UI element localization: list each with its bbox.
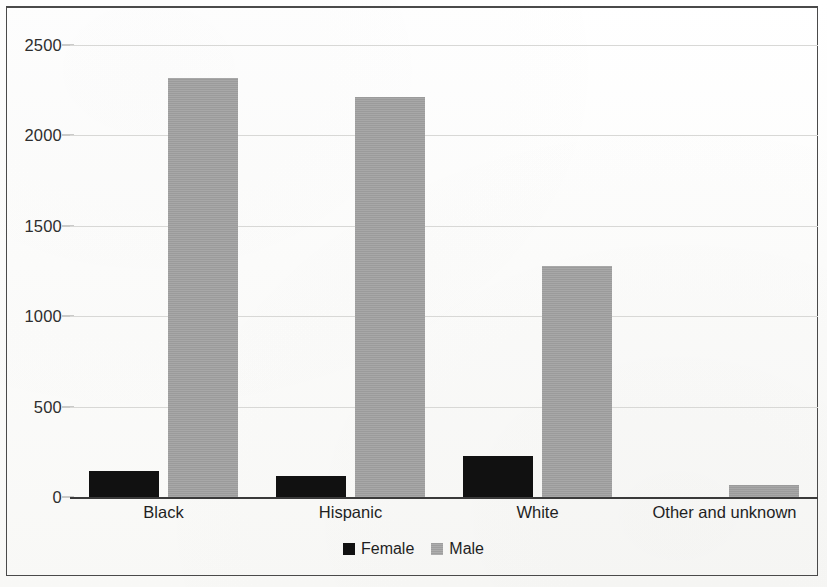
black-square-swatch (343, 543, 355, 555)
chart-figure: 05001000150020002500 BlackHispanicWhiteO… (0, 0, 827, 587)
bar-female-hispanic[interactable] (276, 476, 346, 497)
x-axis-label-black: Black (143, 503, 183, 522)
legend-label: Female (361, 540, 414, 558)
y-axis-tick-label: 1000 (2, 307, 62, 326)
legend-item-female[interactable]: Female (343, 540, 414, 558)
x-axis-label-other-and-unknown: Other and unknown (652, 503, 796, 522)
bar-male-white[interactable] (542, 266, 612, 497)
bar-female-black[interactable] (89, 471, 159, 497)
x-axis-category-labels: BlackHispanicWhiteOther and unknown (70, 503, 818, 529)
y-axis-tick-label: 0 (2, 488, 62, 507)
y-axis-labels: 05001000150020002500 (0, 45, 62, 497)
y-axis-tick-label: 1500 (2, 216, 62, 235)
chart-legend: FemaleMale (0, 540, 827, 558)
bar-series-container (70, 45, 818, 497)
bar-female-white[interactable] (463, 456, 533, 497)
bar-male-black[interactable] (168, 78, 238, 497)
bar-male-hispanic[interactable] (355, 97, 425, 497)
x-axis-label-hispanic: Hispanic (319, 503, 382, 522)
legend-label: Male (449, 540, 484, 558)
y-axis-tick-label: 500 (2, 397, 62, 416)
plot-area (70, 45, 818, 497)
bar-male-other-and-unknown[interactable] (729, 485, 799, 497)
gray-square-swatch (431, 543, 443, 555)
y-axis-tick-label: 2500 (2, 36, 62, 55)
x-axis-label-white: White (516, 503, 558, 522)
legend-item-male[interactable]: Male (431, 540, 484, 558)
x-axis-baseline (70, 497, 818, 499)
y-axis-tick-label: 2000 (2, 126, 62, 145)
